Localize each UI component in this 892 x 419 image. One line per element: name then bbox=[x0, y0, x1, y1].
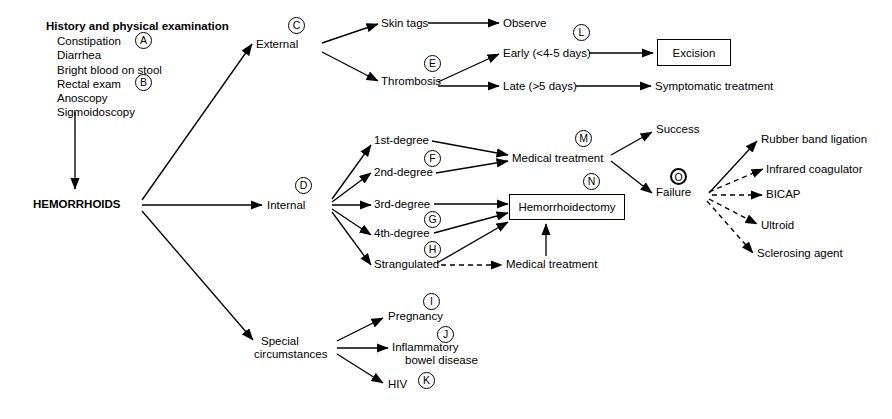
edge-special-to-pregnancy bbox=[337, 318, 383, 341]
edge-2nd-to-medical bbox=[436, 161, 508, 173]
marker-i-icon: I bbox=[423, 293, 440, 310]
node-hemorrhoids: HEMORRHOIDS bbox=[33, 198, 121, 211]
node-thrombosis: Thrombosis bbox=[381, 75, 441, 88]
node-internal: Internal bbox=[267, 199, 305, 212]
marker-f-icon: F bbox=[424, 150, 441, 167]
marker-a-icon: A bbox=[135, 32, 152, 49]
edge-external-to-skin-tags bbox=[322, 24, 378, 43]
node-rubber-band-ligation: Rubber band ligation bbox=[761, 133, 867, 146]
edge-special-to-hiv bbox=[337, 354, 383, 383]
node-ultroid: Ultroid bbox=[761, 219, 794, 232]
node-symptomatic-treatment: Symptomatic treatment bbox=[655, 80, 773, 93]
node-3rd-degree: 3rd-degree bbox=[374, 198, 430, 211]
edge-medical-to-failure bbox=[611, 161, 652, 193]
node-infrared-coagulator: Infrared coagulator bbox=[766, 163, 863, 176]
node-observe: Observe bbox=[503, 17, 546, 30]
marker-m-icon: M bbox=[575, 130, 592, 147]
marker-o-icon: O bbox=[670, 168, 687, 185]
hemorrhoids-algorithm-diagram: Medical treatment 2 --> bbox=[0, 0, 892, 419]
marker-e-icon: E bbox=[424, 55, 441, 72]
node-ibd-line1: Inflammatory bbox=[392, 341, 458, 354]
marker-l-icon: L bbox=[573, 24, 590, 41]
edge-4th-to-hemorrhoidectomy bbox=[434, 213, 508, 233]
edge-1st-to-medical bbox=[432, 141, 508, 155]
edge-hemorrhoids-to-special bbox=[142, 211, 253, 340]
history-item-diarrhea: Diarrhea bbox=[46, 48, 229, 62]
edge-external-to-thrombosis bbox=[322, 52, 378, 81]
edge-failure-to-rubber-band bbox=[709, 141, 757, 193]
edge-strangulated-to-hemorrhoidectomy bbox=[437, 222, 508, 263]
node-hiv: HIV bbox=[388, 378, 407, 391]
edge-failure-to-ultroid bbox=[709, 199, 757, 224]
node-hemorrhoidectomy-box: Hemorrhoidectomy bbox=[509, 194, 625, 220]
node-external: External bbox=[256, 38, 298, 51]
edge-internal-to-1st bbox=[332, 145, 371, 199]
node-2nd-degree: 2nd-degree bbox=[374, 166, 433, 179]
marker-b-icon: B bbox=[135, 74, 152, 91]
edge-internal-to-2nd bbox=[332, 173, 371, 202]
node-special-circumstances-line2: circumstances bbox=[254, 348, 328, 361]
history-item-bright-blood: Bright blood on stool bbox=[46, 63, 229, 77]
node-sclerosing-agent: Sclerosing agent bbox=[757, 247, 843, 260]
node-failure: Failure bbox=[656, 186, 691, 199]
history-item-anoscopy: Anoscopy bbox=[46, 91, 229, 105]
node-success: Success bbox=[656, 123, 699, 136]
edge-failure-to-infrared bbox=[709, 169, 763, 192]
node-skin-tags: Skin tags bbox=[381, 17, 428, 30]
node-excision-box: Excision bbox=[657, 39, 731, 66]
node-ibd-line2: bowel disease bbox=[405, 354, 478, 367]
node-4th-degree: 4th-degree bbox=[374, 227, 430, 240]
edge-internal-to-strangulated bbox=[332, 212, 371, 265]
node-strangulated: Strangulated bbox=[374, 258, 439, 271]
node-medical-treatment-2: Medical treatment bbox=[506, 258, 597, 271]
marker-n-icon: N bbox=[583, 173, 600, 190]
edge-medical-to-success bbox=[611, 132, 652, 155]
marker-c-icon: C bbox=[288, 17, 305, 34]
node-1st-degree: 1st-degree bbox=[374, 134, 429, 147]
node-special-circumstances-line1: Special bbox=[261, 335, 299, 348]
edge-failure-to-sclerosing bbox=[707, 201, 753, 253]
marker-j-icon: J bbox=[437, 326, 454, 343]
history-block-title: History and physical examination bbox=[46, 19, 229, 33]
node-late: Late (>5 days) bbox=[503, 80, 577, 93]
edge-internal-to-4th bbox=[332, 209, 371, 235]
node-pregnancy: Pregnancy bbox=[388, 310, 443, 323]
node-medical-treatment: Medical treatment bbox=[512, 152, 603, 165]
marker-d-icon: D bbox=[295, 177, 312, 194]
marker-k-icon: K bbox=[418, 372, 435, 389]
node-bicap: BICAP bbox=[766, 188, 801, 201]
node-early: Early (<4-5 days) bbox=[503, 47, 591, 60]
marker-g-icon: G bbox=[424, 211, 441, 228]
history-item-sigmoidoscopy: Sigmoidoscopy bbox=[46, 105, 229, 119]
marker-h-icon: H bbox=[424, 241, 441, 258]
edge-thrombosis-to-early bbox=[438, 54, 499, 82]
